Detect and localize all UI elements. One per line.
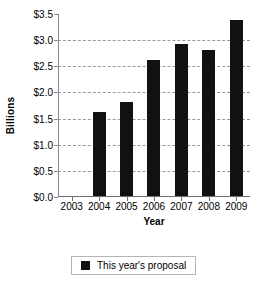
y-tick-label: $0.0	[34, 192, 53, 203]
bar-slot	[223, 13, 250, 196]
y-axis-title: Billions	[2, 60, 20, 170]
y-tick-label: $2.5	[34, 61, 53, 72]
y-axis-title-text: Billions	[6, 96, 17, 134]
x-tick-label: 2004	[85, 201, 112, 212]
bar-slot	[168, 13, 195, 196]
y-tick-label: $2.0	[34, 87, 53, 98]
bar	[202, 50, 215, 196]
x-tick-label: 2009	[223, 201, 250, 212]
x-tick-label: 2003	[58, 201, 85, 212]
x-tick-label: 2008	[195, 201, 222, 212]
y-tick-label: $1.5	[34, 113, 53, 124]
y-tick-label: $3.5	[34, 9, 53, 20]
x-axis-title: Year	[58, 216, 250, 227]
x-tick-label: 2005	[113, 201, 140, 212]
y-tick-label: $0.5	[34, 165, 53, 176]
bar	[175, 44, 188, 196]
bar	[120, 102, 133, 196]
x-tick-label: 2006	[140, 201, 167, 212]
bar	[93, 112, 106, 196]
y-tick-label: $1.0	[34, 139, 53, 150]
legend-label: This year's proposal	[97, 260, 186, 271]
bar-slot	[113, 13, 140, 196]
x-tick-label: 2007	[168, 201, 195, 212]
y-tick-label: $3.0	[34, 35, 53, 46]
bar-chart-figure: Billions $0.0$0.5$1.0$1.5$2.0$2.5$3.0$3.…	[0, 0, 263, 281]
legend: This year's proposal	[71, 256, 196, 275]
bar-slot	[195, 13, 222, 196]
bar-slot	[140, 13, 167, 196]
bar	[230, 20, 243, 196]
y-tick-mark	[54, 197, 58, 198]
plot-area: $0.0$0.5$1.0$1.5$2.0$2.5$3.0$3.5	[58, 14, 250, 197]
bar	[147, 60, 160, 196]
bar-slot	[85, 13, 112, 196]
bar-slot	[58, 13, 85, 196]
legend-swatch-icon	[81, 261, 90, 270]
